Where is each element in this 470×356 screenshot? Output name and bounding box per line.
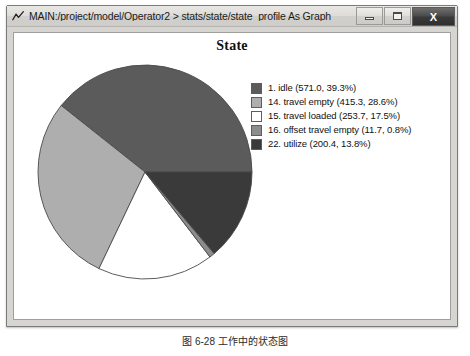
legend-swatch: [251, 83, 262, 94]
pie-chart: [14, 33, 450, 319]
legend-item[interactable]: 14. travel empty (415.3, 28.6%): [251, 95, 451, 109]
graph-icon: [12, 10, 25, 23]
legend-swatch: [251, 111, 262, 122]
legend-item[interactable]: 16. offset travel empty (11.7, 0.8%): [251, 123, 451, 137]
legend-item[interactable]: 1. idle (571.0, 39.3%): [251, 81, 451, 95]
legend-swatch: [251, 125, 262, 136]
application-window: MAIN:/project/model/Operator2 > stats/st…: [6, 5, 458, 327]
legend-label: 16. offset travel empty (11.7, 0.8%): [268, 125, 411, 135]
legend-swatch: [251, 97, 262, 108]
window-title: MAIN:/project/model/Operator2 > stats/st…: [29, 11, 331, 22]
maximize-button[interactable]: [384, 7, 411, 25]
minimize-button[interactable]: [356, 7, 383, 25]
chart-client-area: State 1. idle (571.0, 39.3%)14. travel e…: [13, 32, 451, 320]
legend-label: 22. utilize (200.4, 13.8%): [268, 139, 371, 149]
legend-label: 15. travel loaded (253.7, 17.5%): [268, 111, 400, 121]
legend-label: 14. travel empty (415.3, 28.6%): [268, 97, 397, 107]
legend-item[interactable]: 22. utilize (200.4, 13.8%): [251, 137, 451, 151]
legend-label: 1. idle (571.0, 39.3%): [268, 83, 356, 93]
figure-caption: 图 6-28 工作中的状态图: [0, 333, 470, 348]
pie-chart-svg: [32, 59, 258, 285]
window-controls: X: [355, 6, 457, 27]
legend-item[interactable]: 15. travel loaded (253.7, 17.5%): [251, 109, 451, 123]
minimize-icon: [365, 17, 374, 20]
chart-legend: 1. idle (571.0, 39.3%)14. travel empty (…: [251, 81, 451, 151]
maximize-icon: [393, 12, 402, 20]
legend-swatch: [251, 139, 262, 150]
close-button[interactable]: X: [412, 7, 455, 26]
window-titlebar[interactable]: MAIN:/project/model/Operator2 > stats/st…: [7, 6, 457, 27]
